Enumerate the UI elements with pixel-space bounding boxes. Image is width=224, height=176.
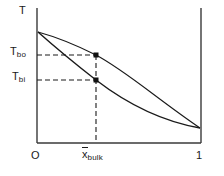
marker-Tbi-point	[94, 78, 99, 83]
y-axis-title: T	[19, 5, 26, 16]
xbulk-base: x	[82, 149, 88, 160]
tbi-base: T	[12, 70, 19, 82]
x-tick-label-origin: O	[31, 150, 40, 161]
y-tick-label-tbi: Tbi	[12, 71, 25, 82]
x-tick-label-one: 1	[196, 150, 202, 161]
x-tick-label-xbulk: xbulk	[82, 149, 103, 160]
tbi-subscript: bi	[19, 75, 26, 84]
xbulk-subscript: bulk	[88, 153, 103, 162]
figure-container: T Tbo Tbi O xbulk 1	[0, 0, 224, 176]
tbo-subscript: bo	[17, 50, 26, 59]
marker-Tbo-point	[94, 53, 99, 58]
tbo-base: T	[10, 45, 17, 57]
y-tick-label-tbo: Tbo	[10, 46, 26, 57]
